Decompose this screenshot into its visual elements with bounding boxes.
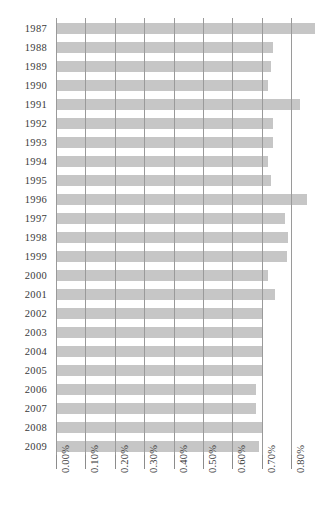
bar-chart: 1987198819891990199119921993199419951996… xyxy=(0,0,316,523)
y-axis-label-1997: 1997 xyxy=(0,209,47,228)
y-axis-label-2006: 2006 xyxy=(0,380,47,399)
chart-row: 2000 xyxy=(0,266,316,285)
bar-1993 xyxy=(56,137,273,148)
bar-1988 xyxy=(56,42,273,53)
bar-1991 xyxy=(56,99,300,110)
chart-row: 2004 xyxy=(0,342,316,361)
chart-row: 1997 xyxy=(0,209,316,228)
tickmark-0.70% xyxy=(262,455,263,469)
bar-2004 xyxy=(56,346,262,357)
chart-row: 1990 xyxy=(0,76,316,95)
chart-row: 2008 xyxy=(0,418,316,437)
y-axis-label-1999: 1999 xyxy=(0,247,47,266)
tickmark-0.40% xyxy=(174,455,175,469)
bar-1998 xyxy=(56,232,288,243)
chart-title xyxy=(58,0,308,2)
chart-row: 1993 xyxy=(0,133,316,152)
y-axis-label-1988: 1988 xyxy=(0,38,47,57)
bar-1987 xyxy=(56,23,315,34)
y-axis-label-2001: 2001 xyxy=(0,285,47,304)
bar-2002 xyxy=(56,308,262,319)
tickmark-0.20% xyxy=(115,455,116,469)
tickmark-0.00% xyxy=(56,455,57,469)
bar-1995 xyxy=(56,175,271,186)
y-axis-label-2004: 2004 xyxy=(0,342,47,361)
tickmark-0.10% xyxy=(85,455,86,469)
chart-row: 2007 xyxy=(0,399,316,418)
bar-2000 xyxy=(56,270,268,281)
bar-2005 xyxy=(56,365,262,376)
chart-row: 2006 xyxy=(0,380,316,399)
chart-row: 1996 xyxy=(0,190,316,209)
chart-row: 2003 xyxy=(0,323,316,342)
chart-row: 1992 xyxy=(0,114,316,133)
y-axis-label-1989: 1989 xyxy=(0,57,47,76)
bar-2001 xyxy=(56,289,275,300)
bar-2003 xyxy=(56,327,262,338)
bar-1999 xyxy=(56,251,287,262)
bar-1992 xyxy=(56,118,273,129)
chart-row: 1995 xyxy=(0,171,316,190)
chart-row: 1988 xyxy=(0,38,316,57)
chart-row: 1987 xyxy=(0,19,316,38)
y-axis-label-2007: 2007 xyxy=(0,399,47,418)
bar-1990 xyxy=(56,80,268,91)
plot-area: 1987198819891990199119921993199419951996… xyxy=(0,18,316,455)
y-axis-label-1987: 1987 xyxy=(0,19,47,38)
bar-1996 xyxy=(56,194,307,205)
chart-row: 1994 xyxy=(0,152,316,171)
bar-1989 xyxy=(56,61,271,72)
y-axis-label-1990: 1990 xyxy=(0,76,47,95)
chart-row: 1989 xyxy=(0,57,316,76)
tickmark-0.60% xyxy=(232,455,233,469)
bar-1994 xyxy=(56,156,268,167)
x-axis: 0.00%0.10%0.20%0.30%0.40%0.50%0.60%0.70%… xyxy=(0,455,316,523)
y-axis-label-1994: 1994 xyxy=(0,152,47,171)
chart-row: 2001 xyxy=(0,285,316,304)
y-axis-label-1998: 1998 xyxy=(0,228,47,247)
y-axis-label-1992: 1992 xyxy=(0,114,47,133)
bar-2007 xyxy=(56,403,256,414)
chart-row: 2002 xyxy=(0,304,316,323)
y-axis-label-2009: 2009 xyxy=(0,437,47,456)
bar-1997 xyxy=(56,213,285,224)
y-axis-label-2008: 2008 xyxy=(0,418,47,437)
y-axis-label-1993: 1993 xyxy=(0,133,47,152)
tickmark-0.50% xyxy=(203,455,204,469)
chart-row: 1999 xyxy=(0,247,316,266)
chart-row: 1998 xyxy=(0,228,316,247)
chart-row: 2005 xyxy=(0,361,316,380)
y-axis-label-1995: 1995 xyxy=(0,171,47,190)
y-axis-label-2003: 2003 xyxy=(0,323,47,342)
y-axis-label-2002: 2002 xyxy=(0,304,47,323)
y-axis-label-2005: 2005 xyxy=(0,361,47,380)
y-axis-label-2000: 2000 xyxy=(0,266,47,285)
chart-row: 1991 xyxy=(0,95,316,114)
tickmark-0.30% xyxy=(144,455,145,469)
y-axis-label-1996: 1996 xyxy=(0,190,47,209)
bar-2008 xyxy=(56,422,262,433)
y-axis-label-1991: 1991 xyxy=(0,95,47,114)
bar-2006 xyxy=(56,384,256,395)
tickmark-0.80% xyxy=(291,455,292,469)
